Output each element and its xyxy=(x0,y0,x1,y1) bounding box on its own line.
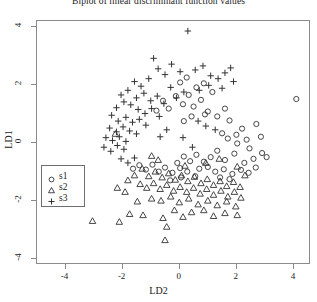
x-tick-label-0: 0 xyxy=(164,271,194,281)
y-tick--2 xyxy=(31,200,36,201)
chart-title: Biplot of linear discriminant function v… xyxy=(0,0,317,6)
y-tick-label--4: -4 xyxy=(13,247,23,267)
y-axis-title: LD1 xyxy=(3,120,14,160)
x-tick-label--4: -4 xyxy=(50,271,80,281)
y-tick--4 xyxy=(31,258,36,259)
plus-icon xyxy=(46,193,57,205)
x-tick-2 xyxy=(236,264,237,269)
x-tick-label--2: -2 xyxy=(107,271,137,281)
y-tick-label-4: 4 xyxy=(13,15,23,35)
y-tick-0 xyxy=(31,142,36,143)
x-tick-0 xyxy=(179,264,180,269)
x-tick-label-4: 4 xyxy=(278,271,308,281)
chart-root: Biplot of linear discriminant function v… xyxy=(0,0,317,302)
x-tick-4 xyxy=(293,264,294,269)
legend-label-s3: s3 xyxy=(59,192,67,204)
y-tick-label-0: 0 xyxy=(13,131,23,151)
y-tick-label--2: -2 xyxy=(13,189,23,209)
x-tick-label-2: 2 xyxy=(221,271,251,281)
x-axis-title: LD2 xyxy=(0,285,317,296)
y-tick-2 xyxy=(31,84,36,85)
y-tick-label-2: 2 xyxy=(13,73,23,93)
legend: s1s2s3 xyxy=(41,165,85,207)
y-tick-4 xyxy=(31,26,36,27)
plot-frame xyxy=(36,20,310,264)
legend-entry-s3: s3 xyxy=(46,193,86,205)
x-tick--2 xyxy=(122,264,123,269)
x-tick--4 xyxy=(65,264,66,269)
